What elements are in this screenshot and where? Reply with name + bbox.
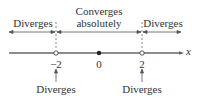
open-circle-2 [140,51,144,55]
endpoint-note-2: Diverges [122,84,162,95]
axis-label-x: x [186,46,191,57]
region-label-absolutely: absolutely [76,18,121,29]
endpoint-arrows [55,69,144,82]
open-circle-minus-2 [54,51,58,55]
region-label-right-diverges: Diverges [143,18,183,29]
tick-label-2: 2 [139,59,145,70]
tick-label-0: 0 [96,59,102,70]
region-arrows [9,31,181,34]
region-label-left-diverges: Diverges [13,18,53,29]
x-axis-arrowhead [179,51,184,55]
endpoint-note-minus-2: Diverges [36,84,76,95]
filled-dot-0 [97,51,101,55]
region-label-converges: Converges [76,6,123,17]
tick-label-minus-2: −2 [50,59,62,70]
